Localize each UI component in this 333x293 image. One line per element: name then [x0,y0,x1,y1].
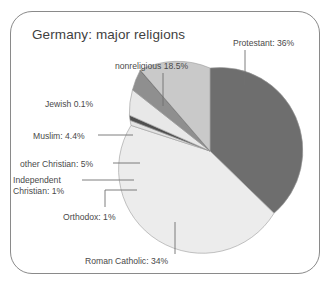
slice-label-jewish: Jewish 0.1% [45,99,93,110]
slice-label-protestant: Protestant: 36% [233,38,294,49]
slice-label-muslim: Muslim: 4.4% [33,131,85,142]
slice-label-orthodox: Orthodox: 1% [63,212,116,223]
pie-chart-figure: Germany: major religions Protestant: 36%… [0,0,333,293]
slice-label-other-christian: other Christian: 5% [20,159,93,170]
slice-label-nonreligious: nonreligious 18.5% [115,61,188,72]
slice-label-roman-catholic: Roman Catholic: 34% [85,256,168,267]
slice-label-independent-christian: Independent Christian: 1% [13,175,79,197]
